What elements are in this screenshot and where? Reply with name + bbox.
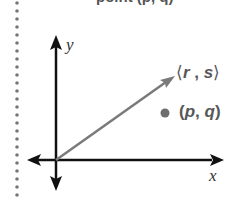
vector-label-open: ⟨: [176, 63, 183, 82]
point-label-q: q: [205, 102, 215, 121]
point-label-close: ): [215, 102, 221, 121]
point-label-p: p: [185, 102, 195, 121]
vector-label-s: s: [204, 63, 213, 82]
point-label-sep: ,: [195, 102, 204, 121]
y-axis-label: y: [66, 35, 74, 55]
x-axis-label: x: [209, 166, 217, 186]
vector-rs: [56, 76, 175, 160]
y-axis: [50, 35, 62, 191]
point-label: (p, q): [179, 102, 221, 122]
x-axis-right-arrow-icon: [210, 154, 224, 166]
vector-label: ⟨r , s⟩: [176, 62, 220, 83]
dotted-rule: [15, 1, 19, 197]
point-pq-dot: [161, 109, 170, 118]
vector-label-close: ⟩: [213, 63, 220, 82]
vector-label-sep: ,: [190, 63, 204, 82]
vector-label-r: r: [183, 63, 190, 82]
vector-arrowhead-icon: [160, 76, 175, 88]
